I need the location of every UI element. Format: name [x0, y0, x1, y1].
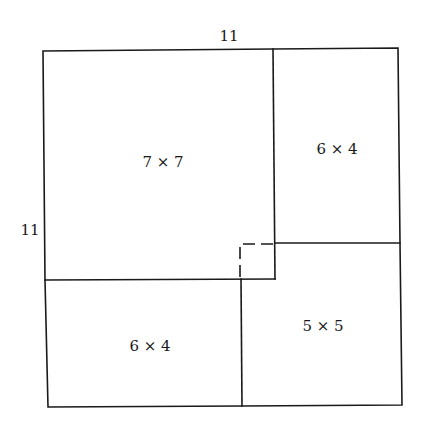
- region-label-7x7: 7 × 7: [142, 153, 183, 171]
- dissection-diagram: 11 11 7 × 7 6 × 4 6 × 4 5 × 5: [0, 0, 422, 429]
- region-label-6x4-bottom-left: 6 × 4: [129, 337, 170, 355]
- region-label-5x5: 5 × 5: [302, 317, 343, 335]
- region-label-6x4-top-right: 6 × 4: [316, 140, 357, 158]
- top-dimension-label: 11: [219, 27, 238, 45]
- left-dimension-label: 11: [20, 221, 39, 239]
- bottom-row-divider: [241, 279, 242, 406]
- overlap-dashed-square: [240, 244, 273, 279]
- outer-border: [43, 48, 402, 407]
- square-7x7-right-edge: [273, 49, 275, 279]
